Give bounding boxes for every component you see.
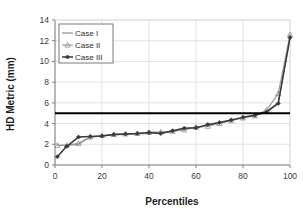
x-tick-label: 40 [144, 171, 154, 181]
chart-figure: 02468101214020406080100 Case ICase IICas… [0, 0, 303, 211]
x-axis-title: Percentiles [145, 196, 199, 207]
x-tick-label: 100 [283, 171, 297, 181]
y-tick-label: 0 [44, 160, 49, 170]
y-axis-title: HD Metric (mm) [5, 57, 16, 131]
y-tick-label: 14 [40, 15, 50, 25]
legend-item-label: Case I [75, 29, 98, 38]
y-tick-label: 2 [44, 139, 49, 149]
x-tick-label: 0 [53, 171, 58, 181]
line-chart: 02468101214020406080100 Case ICase IICas… [0, 0, 303, 211]
x-tick-label: 20 [97, 171, 107, 181]
y-tick-label: 6 [44, 98, 49, 108]
legend-item-label: Case II [75, 41, 100, 50]
y-tick-label: 8 [44, 77, 49, 87]
legend-item-label: Case III [75, 53, 103, 62]
chart-legend: Case ICase IICase III [59, 24, 113, 63]
y-tick-label: 4 [44, 119, 49, 129]
x-tick-label: 60 [191, 171, 201, 181]
x-tick-label: 80 [238, 171, 248, 181]
y-tick-label: 10 [40, 56, 50, 66]
y-tick-label: 12 [40, 36, 50, 46]
